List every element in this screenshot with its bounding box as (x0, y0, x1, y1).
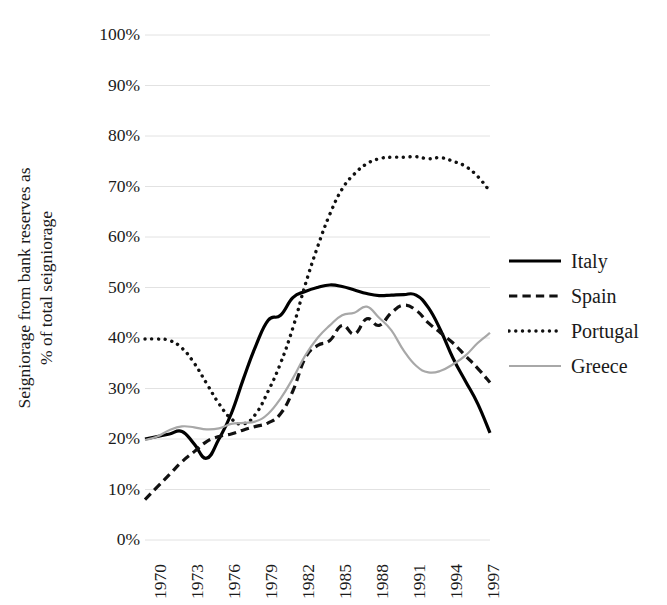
legend-swatch-spain-icon (508, 289, 562, 303)
series-line-spain (145, 305, 490, 500)
legend: ItalySpainPortugalGreece (508, 243, 666, 383)
legend-label: Spain (571, 286, 617, 306)
series-lines (145, 157, 490, 500)
legend-swatch-italy-icon (508, 254, 562, 268)
legend-item-portugal[interactable]: Portugal (508, 313, 666, 348)
legend-swatch-portugal-icon (508, 324, 562, 338)
series-line-portugal (145, 157, 490, 425)
legend-label: Portugal (571, 321, 639, 341)
legend-label: Italy (571, 251, 608, 271)
legend-item-spain[interactable]: Spain (508, 278, 666, 313)
legend-swatch-greece-icon (508, 359, 562, 373)
seigniorage-line-chart: Seigniorage from bank reserves as % of t… (0, 0, 667, 605)
legend-item-italy[interactable]: Italy (508, 243, 666, 278)
legend-label: Greece (571, 356, 628, 376)
legend-item-greece[interactable]: Greece (508, 348, 666, 383)
